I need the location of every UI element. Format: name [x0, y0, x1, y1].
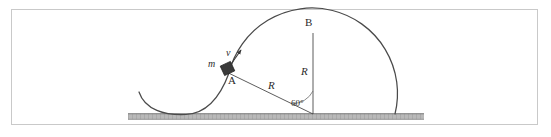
valley-curve	[139, 73, 229, 115]
physics-diagram-figure: B A m v R R 60°	[0, 0, 551, 137]
diagram-canvas	[0, 0, 551, 137]
label-velocity-v: v	[226, 48, 230, 58]
label-radius-diagonal: R	[268, 80, 275, 91]
label-point-a: A	[228, 75, 236, 86]
label-radius-vertical: R	[301, 66, 308, 77]
label-mass-m: m	[208, 59, 215, 69]
label-angle-60: 60°	[291, 99, 304, 108]
label-point-b: B	[305, 17, 312, 28]
